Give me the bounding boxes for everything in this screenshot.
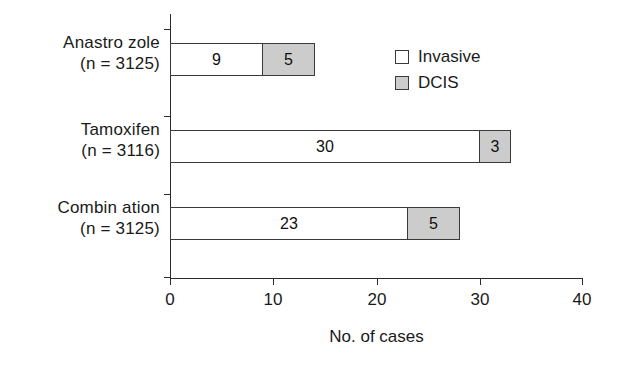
y-axis-tick: [164, 194, 170, 195]
plot-area: 0 10 20 30 40 9 5 30 3 23: [170, 14, 583, 278]
x-axis-tick-label-20: 20: [347, 290, 407, 310]
x-axis-tick-label-0: 0: [140, 290, 200, 310]
category-label-tamoxifen: Tamoxifen (n = 3116): [0, 119, 160, 161]
category-label-anastrozole: Anastro zole (n = 3125): [0, 32, 160, 74]
bar-segment-dcis: 5: [407, 207, 460, 240]
category-name: Tamoxifen: [0, 119, 160, 140]
category-name: Combin ation: [0, 197, 160, 218]
bar-segment-invasive: 30: [170, 130, 480, 163]
legend-label: DCIS: [418, 73, 459, 93]
legend: Invasive DCIS: [395, 44, 480, 96]
bar-value-label: 30: [316, 138, 334, 156]
bar-segment-invasive: 23: [170, 207, 408, 240]
white-square-icon: [395, 50, 409, 64]
bar-value-label: 5: [429, 215, 438, 233]
category-sample-size: (n = 3125): [0, 218, 160, 239]
x-axis-tick-label-10: 10: [243, 290, 303, 310]
x-axis-tick-30: [480, 278, 481, 285]
category-sample-size: (n = 3116): [0, 140, 160, 161]
legend-item-invasive: Invasive: [395, 44, 480, 70]
gray-square-icon: [395, 76, 409, 90]
bar-segment-dcis: 5: [262, 43, 315, 76]
bar-value-label: 3: [491, 138, 500, 156]
x-axis-tick-40: [582, 278, 583, 285]
x-axis-tick-label-30: 30: [450, 290, 510, 310]
x-axis-tick-20: [377, 278, 378, 285]
category-name: Anastro zole: [0, 32, 160, 53]
x-axis-tick-0: [170, 278, 171, 285]
y-axis-tick: [164, 29, 170, 30]
bar-value-label: 23: [280, 215, 298, 233]
bar-value-label: 5: [284, 51, 293, 69]
y-axis-tick: [164, 116, 170, 117]
legend-label: Invasive: [418, 47, 480, 67]
stacked-bar-chart: Anastro zole (n = 3125) Tamoxifen (n = 3…: [0, 0, 618, 371]
category-sample-size: (n = 3125): [0, 53, 160, 74]
legend-item-dcis: DCIS: [395, 70, 480, 96]
category-label-combination: Combin ation (n = 3125): [0, 197, 160, 239]
bar-segment-invasive: 9: [170, 43, 263, 76]
x-axis-tick-10: [273, 278, 274, 285]
x-axis-title: No. of cases: [170, 327, 583, 347]
x-axis-tick-label-40: 40: [552, 290, 612, 310]
bar-segment-dcis: 3: [479, 130, 511, 163]
bar-value-label: 9: [212, 51, 221, 69]
